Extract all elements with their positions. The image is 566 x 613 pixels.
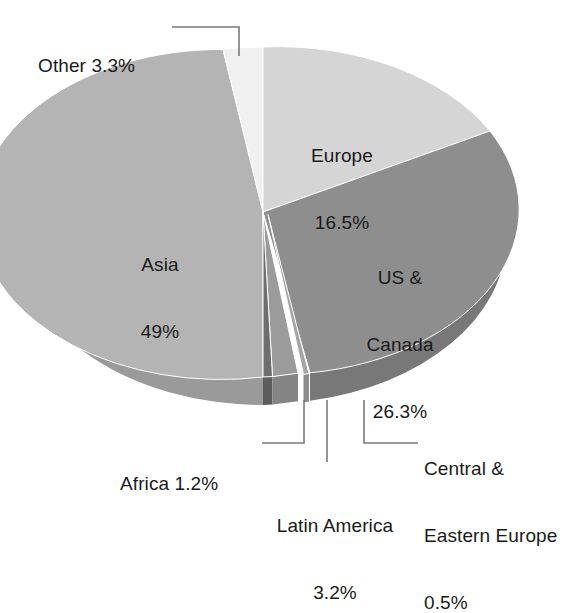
slice-label-us-canada-name2: Canada — [340, 334, 460, 356]
slice-label-other-text: Other 3.3% — [38, 55, 198, 77]
slice-label-africa: Africa 1.2% — [120, 428, 270, 540]
slice-label-cee-name2: Eastern Europe — [424, 525, 566, 547]
slice-label-us-canada-name1: US & — [340, 267, 460, 289]
slice-label-other: Other 3.3% — [38, 10, 198, 122]
slice-label-cee-name1: Central & — [424, 458, 566, 480]
slice-label-latin-america-value: 3.2% — [255, 582, 415, 604]
slice-label-asia-name: Asia — [100, 254, 220, 276]
slice-side-cee — [304, 374, 310, 403]
slice-label-africa-text: Africa 1.2% — [120, 473, 270, 495]
slice-side-africa — [263, 377, 273, 405]
slice-side-latin-america — [273, 373, 299, 404]
slice-label-latin-america-name: Latin America — [255, 515, 415, 537]
slice-label-europe-name: Europe — [282, 145, 402, 167]
slice-label-latin-america: Latin America 3.2% — [255, 470, 415, 613]
slice-label-central-eastern-europe: Central & Eastern Europe 0.5% — [424, 413, 566, 613]
slice-label-cee-value: 0.5% — [424, 592, 566, 613]
slice-label-asia: Asia 49% — [100, 209, 220, 388]
slice-label-asia-value: 49% — [100, 321, 220, 343]
